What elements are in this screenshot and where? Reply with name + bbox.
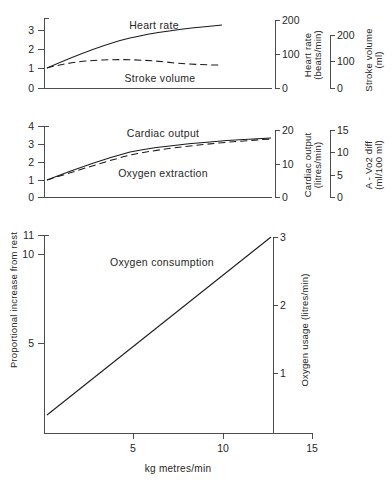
panel2-ytick-3: 3 xyxy=(28,138,34,150)
panel1-right1-title-line2: (beats/min) xyxy=(312,30,323,80)
panel3-right-tick-1: 1 xyxy=(280,367,286,379)
panel1-ytick-2: 2 xyxy=(28,43,34,55)
panel1-ytick-1: 1 xyxy=(28,62,34,74)
x-axis-title: kg metres/min xyxy=(145,463,212,474)
x-tick-10: 10 xyxy=(217,442,229,454)
panel1-heart-rate-label: Heart rate xyxy=(129,19,179,31)
panel2-right2-tick-5: 5 xyxy=(337,169,343,181)
panel2-right1-tick-10: 10 xyxy=(282,158,294,170)
panel2-cardiac-output-label: Cardiac output xyxy=(127,127,200,139)
x-axis: 5 10 15 kg metres/min xyxy=(44,433,318,474)
panel2-left-ticks: 4 3 2 1 0 xyxy=(28,120,49,203)
panel2-ytick-2: 2 xyxy=(28,156,34,168)
figure-canvas: Proportional increase from rest 3 2 1 0 … xyxy=(0,0,392,480)
panel1-right2-tick-100: 100 xyxy=(337,55,355,67)
shared-y-axis-title: Proportional increase from rest xyxy=(8,232,19,368)
oxygen-consumption-panel: 11 10 5 Oxygen consumption 3 2 1 Oxygen … xyxy=(22,229,310,433)
panel2-right1-title-line2: (litres/min) xyxy=(312,142,323,189)
panel2-ytick-0: 0 xyxy=(28,191,34,203)
panel3-right-tick-3: 3 xyxy=(280,231,286,243)
panel3-right-tick-2: 2 xyxy=(280,299,286,311)
panel3-ytick-11: 11 xyxy=(23,229,34,241)
panel1-ytick-3: 3 xyxy=(28,24,34,36)
panel1-ytick-0: 0 xyxy=(28,82,34,94)
panel3-right-axis-oxygen-usage: 3 2 1 Oxygen usage (litres/min) xyxy=(273,231,310,433)
panel1-right2-tick-0: 0 xyxy=(337,82,343,94)
panel2-right-axis-cardiac-output: 20 10 0 Cardiac output (litres/min) xyxy=(275,124,323,203)
panel2-right-axis-avo2-diff: 15 10 5 0 A - Vo2 diff (ml/100 ml) xyxy=(330,124,384,203)
panel3-right-title: Oxygen usage (litres/min) xyxy=(299,273,310,386)
panel2-ytick-4: 4 xyxy=(28,120,34,132)
panel1-right-axis-heart-rate: 200 100 0 Heart rate (beats/min) xyxy=(275,14,323,94)
panel2-right2-tick-15: 15 xyxy=(337,124,349,136)
cardiac-output-panel: 4 3 2 1 0 Cardiac output Oxygen extracti… xyxy=(28,120,384,203)
panel3-oxygen-consumption-label: Oxygen consumption xyxy=(110,256,214,268)
panel1-right-axis-stroke-volume: 200 100 0 Stroke volume (ml) xyxy=(330,28,384,94)
panel3-left-ticks: 11 10 5 xyxy=(22,229,49,349)
panel1-left-ticks: 3 2 1 0 xyxy=(28,18,49,94)
x-tick-15: 15 xyxy=(306,442,318,454)
panel1-stroke-volume-curve xyxy=(47,60,222,68)
cardiac-rate-panel: 3 2 1 0 Heart rate Stroke volume 200 100… xyxy=(28,14,384,94)
panel2-right1-tick-0: 0 xyxy=(282,191,288,203)
panel1-stroke-volume-label: Stroke volume xyxy=(124,72,195,84)
panel1-right1-tick-0: 0 xyxy=(282,82,288,94)
x-tick-5: 5 xyxy=(130,442,136,454)
panel1-right1-tick-100: 100 xyxy=(282,48,300,60)
panel2-right2-tick-0: 0 xyxy=(337,191,343,203)
physiology-exercise-figure: Proportional increase from rest 3 2 1 0 … xyxy=(0,0,392,480)
panel2-right1-tick-20: 20 xyxy=(282,124,294,136)
panel2-right2-title-line2: (ml/100 ml) xyxy=(373,140,384,190)
panel1-heart-rate-curve xyxy=(47,25,222,68)
panel1-right1-tick-200: 200 xyxy=(282,14,300,26)
panel3-ytick-10: 10 xyxy=(22,248,34,260)
panel3-ytick-5: 5 xyxy=(28,337,34,349)
panel2-oxygen-extraction-label: Oxygen extraction xyxy=(118,167,208,179)
panel1-right2-title-line2: (ml) xyxy=(373,51,384,68)
panel2-right2-tick-10: 10 xyxy=(337,146,349,158)
panel2-ytick-1: 1 xyxy=(28,174,34,186)
panel1-right2-tick-200: 200 xyxy=(337,29,355,41)
